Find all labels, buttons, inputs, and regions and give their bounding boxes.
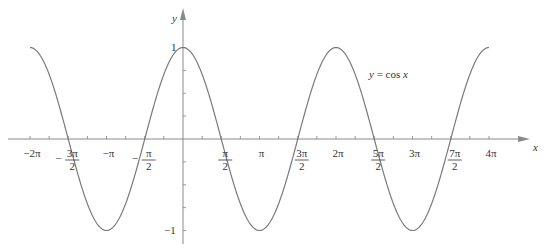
x-axis-arrow-icon	[518, 136, 530, 142]
x-tick-label: −	[132, 152, 138, 164]
x-tick-label: 2	[452, 160, 458, 172]
cosine-chart: x y 1 −1 y = cos x −2π−3π2−π−π2π2π3π22π5…	[0, 0, 553, 250]
x-tick-label: 2	[376, 160, 382, 172]
x-tick-label: 5π	[373, 147, 385, 159]
x-tick-label: 2	[299, 160, 305, 172]
x-tick-label: 2	[146, 160, 152, 172]
y-tick-label-neg1: −1	[164, 224, 176, 236]
x-tick-label: 7π	[449, 147, 461, 159]
x-tick-label: 2π	[332, 147, 344, 159]
x-tick-label: 3π	[296, 147, 308, 159]
y-tick-label-1: 1	[171, 41, 177, 53]
x-tick-label: −π	[103, 147, 115, 159]
curve-annotation: y = cos x	[368, 68, 408, 80]
x-tick-label: π	[146, 147, 152, 159]
x-tick-label: −2π	[23, 147, 41, 159]
x-tick-label: 3π	[67, 147, 79, 159]
x-axis-label: x	[532, 141, 538, 153]
x-tick-label: 4π	[485, 147, 497, 159]
x-tick-label: π	[259, 147, 265, 159]
x-tick-label: −	[55, 152, 61, 164]
x-tick-labels: −2π−3π2−π−π2π2π3π22π5π23π7π24π	[23, 147, 497, 172]
x-tick-label: 2	[223, 160, 229, 172]
y-axis-label: y	[171, 12, 177, 24]
x-tick-label: 3π	[409, 147, 421, 159]
x-tick-label: π	[222, 147, 228, 159]
y-axis-arrow-icon	[180, 8, 186, 20]
x-tick-label: 2	[69, 160, 75, 172]
